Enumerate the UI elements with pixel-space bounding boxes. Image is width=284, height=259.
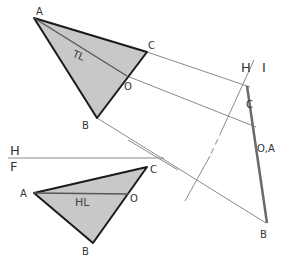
label-front-c: C <box>150 164 157 175</box>
label-h1-i: I <box>262 60 266 75</box>
label-aux-c: C <box>246 99 253 110</box>
label-front-o: O <box>130 193 138 204</box>
descriptive-geometry-diagram: A C O B TL H F C A O HL B H I C O,A B <box>0 0 284 259</box>
label-hf-f: F <box>10 159 17 174</box>
label-aux-oa: O,A <box>257 143 275 154</box>
top-view-triangle <box>34 18 147 118</box>
label-hf-h: H <box>10 143 20 158</box>
label-front-a: A <box>20 188 27 199</box>
projector-c <box>147 52 250 87</box>
front-view-triangle <box>34 167 147 243</box>
label-top-c: C <box>148 40 155 51</box>
projector-o <box>127 76 256 127</box>
label-front-b: B <box>82 246 89 257</box>
label-top-o: O <box>124 81 132 92</box>
fold-line-h1-lower <box>185 156 210 201</box>
label-top-b: B <box>82 120 89 131</box>
label-top-a: A <box>36 6 43 17</box>
label-front-hl: HL <box>75 196 90 209</box>
fold-line-h1-dashed <box>210 130 222 156</box>
projector-b <box>97 118 266 223</box>
label-h1-h: H <box>241 60 251 75</box>
label-aux-b: B <box>260 229 267 240</box>
